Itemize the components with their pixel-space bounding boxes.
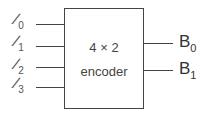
input-label-0: I0 (14, 10, 24, 31)
output-line-0 (144, 43, 173, 44)
output-label-1: B1 (179, 59, 196, 81)
input-line-3 (36, 87, 64, 88)
output-label-0: B0 (179, 32, 196, 54)
input-line-1 (36, 46, 64, 47)
input-line-0 (36, 24, 64, 25)
input-label-1: I1 (14, 32, 24, 53)
output-line-1 (144, 70, 173, 71)
encoder-block (64, 8, 144, 109)
encoder-size-label: 4 × 2 (64, 40, 144, 55)
input-label-2: I2 (14, 55, 24, 76)
input-label-3: I3 (14, 74, 24, 95)
encoder-type-label: encoder (64, 64, 144, 79)
input-line-2 (36, 67, 64, 68)
